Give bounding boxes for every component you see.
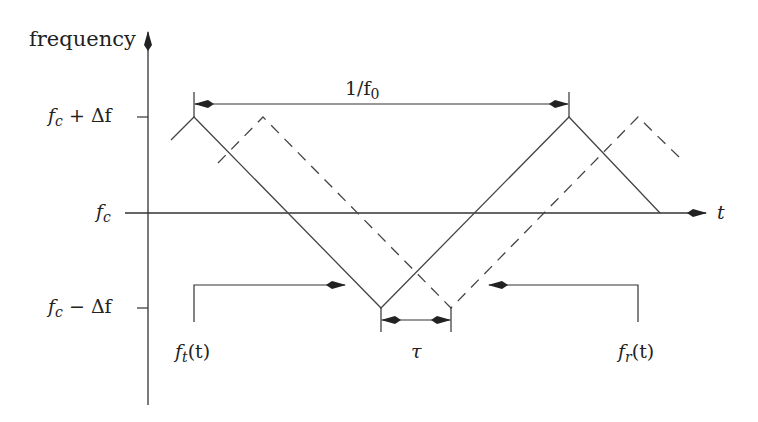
label-fc-plus-df: fc + Δf [46,104,114,129]
fmcw-diagram: frequency t fc + Δf fc fc − Δf 1/f0 τ ft… [0,0,758,422]
transmitted-pointer [194,285,345,322]
period-label: 1/f0 [345,77,379,102]
y-axis-label: frequency [29,27,136,51]
label-fc-minus-df: fc − Δf [46,295,114,320]
received-label: fr(t) [616,340,654,365]
received-pointer [489,285,638,322]
transmitted-label: ft(t) [173,340,210,365]
label-fc: fc [94,200,111,225]
delay-dimension [381,308,451,332]
x-axis-label: t [717,201,725,223]
period-dimension [194,92,569,117]
delay-label: τ [411,340,422,362]
